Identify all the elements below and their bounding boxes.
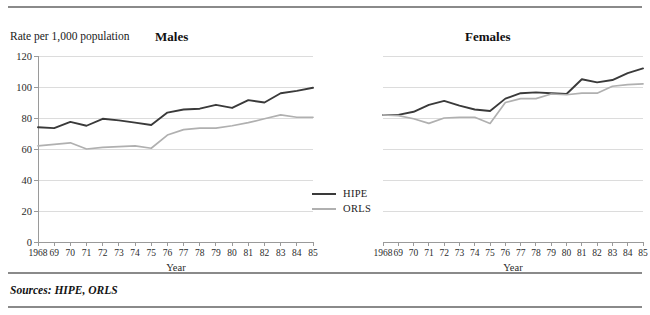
- legend-swatch-hipe-icon: [312, 193, 336, 195]
- panel-title-females: Females: [465, 29, 510, 45]
- x-tick-label: 82: [592, 248, 602, 258]
- chart-legend: HIPEORLS: [312, 186, 422, 216]
- x-axis-tick-labels-males: 19686970717273747576777879808182838485: [38, 248, 313, 262]
- series-line-orls: [383, 84, 643, 124]
- sources-note: Sources: HIPE, ORLS: [10, 284, 118, 296]
- legend-item-hipe: HIPE: [312, 186, 422, 201]
- x-tick-label: 70: [409, 248, 419, 258]
- x-tick-label: 76: [501, 248, 511, 258]
- y-axis-tick-labels: 020406080100120: [0, 56, 32, 242]
- plot-area: [383, 56, 643, 242]
- x-tick-label: 83: [608, 248, 618, 258]
- x-tick-label: 80: [562, 248, 572, 258]
- y-tick-label: 0: [27, 237, 32, 248]
- x-tick-label: 83: [276, 248, 286, 258]
- x-tick-label: 72: [439, 248, 449, 258]
- middle-rule: [8, 272, 642, 274]
- x-tick-label: 77: [179, 248, 189, 258]
- x-tick-label: 79: [211, 248, 221, 258]
- x-tick-label: 85: [308, 248, 318, 258]
- x-tick-label: 75: [146, 248, 156, 258]
- x-tick-label: 81: [577, 248, 587, 258]
- x-tick-label: 74: [470, 248, 480, 258]
- bottom-rule: [8, 306, 642, 308]
- legend-label: HIPE: [343, 188, 368, 199]
- x-tick-label: 70: [66, 248, 76, 258]
- x-tick-label: 76: [163, 248, 173, 258]
- panel-title-males: Males: [155, 29, 188, 45]
- x-tick-label: 79: [546, 248, 556, 258]
- x-tick-label: 69: [394, 248, 404, 258]
- top-rule: [8, 6, 642, 8]
- x-tick-label: 71: [424, 248, 434, 258]
- x-tick-label: 77: [516, 248, 526, 258]
- x-tick-label: 71: [82, 248, 92, 258]
- x-tick-label: 74: [130, 248, 140, 258]
- x-tick-label: 72: [98, 248, 108, 258]
- y-tick-label: 40: [22, 175, 33, 186]
- y-tick-label: 60: [22, 144, 33, 155]
- x-axis-tick-labels-females: 19686970717273747576777879808182838485: [383, 248, 643, 262]
- y-tick-label: 100: [16, 82, 32, 93]
- x-tick-label: 85: [638, 248, 648, 258]
- series-line-hipe: [383, 68, 643, 115]
- plot-area: [38, 56, 313, 242]
- x-tick-label: 69: [49, 248, 59, 258]
- x-tick-label: 1968: [29, 248, 48, 258]
- y-axis-caption: Rate per 1,000 population: [10, 30, 129, 42]
- x-tick-label: 73: [114, 248, 124, 258]
- chart-males: [38, 56, 313, 242]
- y-tick-label: 120: [16, 51, 32, 62]
- x-axis-name-females: Year: [503, 262, 522, 273]
- x-tick-label: 78: [531, 248, 541, 258]
- y-tick-label: 80: [22, 113, 33, 124]
- y-tick-label: 20: [22, 206, 33, 217]
- legend-label: ORLS: [343, 203, 371, 214]
- x-axis-name-males: Year: [166, 262, 185, 273]
- x-tick-label: 82: [260, 248, 270, 258]
- x-tick-label: 80: [227, 248, 237, 258]
- x-tick-label: 81: [244, 248, 254, 258]
- x-tick-label: 73: [455, 248, 465, 258]
- x-tick-label: 84: [292, 248, 302, 258]
- x-tick-label: 75: [485, 248, 495, 258]
- series-line-orls: [38, 115, 313, 149]
- series-line-hipe: [38, 88, 313, 128]
- x-tick-label: 84: [623, 248, 633, 258]
- legend-item-orls: ORLS: [312, 201, 422, 216]
- x-tick-label: 1968: [374, 248, 393, 258]
- x-tick-label: 78: [195, 248, 205, 258]
- figure-panel: Rate per 1,000 population Males Females …: [0, 0, 650, 315]
- chart-females: [383, 56, 643, 242]
- legend-swatch-orls-icon: [312, 208, 336, 210]
